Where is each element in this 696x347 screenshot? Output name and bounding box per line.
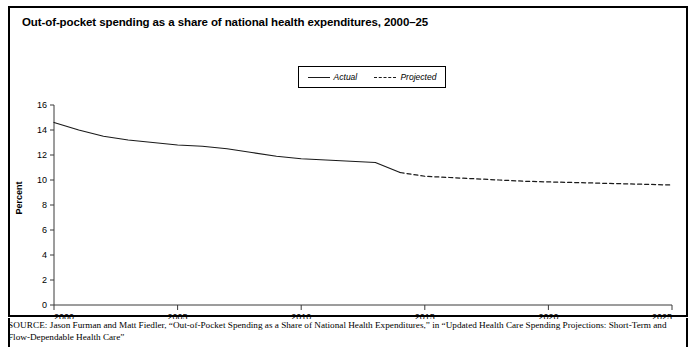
figure-panel: Out-of-pocket spending as a share of nat… [8, 6, 688, 317]
y-tick-label: 12 [37, 150, 47, 160]
y-tick-label: 0 [42, 300, 47, 310]
chart-canvas: 0246810121416200020052010201520202025 [10, 8, 690, 319]
series-line-projected [400, 173, 672, 186]
y-tick-label: 4 [42, 250, 47, 260]
plot-area: 0246810121416200020052010201520202025 Pe… [10, 8, 690, 319]
y-tick-label: 10 [37, 175, 47, 185]
y-tick-label: 8 [42, 200, 47, 210]
x-tick-label: 2000 [54, 312, 74, 319]
source-text: Jason Furman and Matt Fiedler, “Out-of-P… [8, 320, 667, 342]
y-axis-label: Percent [14, 181, 24, 214]
y-tick-label: 16 [37, 100, 47, 110]
y-tick-label: 14 [37, 125, 47, 135]
series-line-actual [54, 123, 400, 173]
y-tick-label: 2 [42, 275, 47, 285]
x-tick-label: 2020 [538, 312, 558, 319]
source-note: SOURCE: Jason Furman and Matt Fiedler, “… [8, 320, 688, 347]
y-tick-label: 6 [42, 225, 47, 235]
x-tick-label: 2015 [415, 312, 435, 319]
source-kicker: SOURCE: [8, 320, 48, 330]
x-tick-label: 2010 [291, 312, 311, 319]
x-tick-label: 2025 [652, 312, 672, 319]
x-tick-label: 2005 [168, 312, 188, 319]
